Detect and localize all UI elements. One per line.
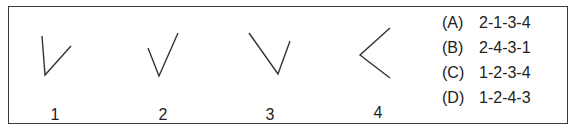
figure-3-angle	[249, 33, 290, 74]
answer-options: (A)2-1-3-4 (B)2-4-3-1 (C)1-2-3-4 (D)1-2-…	[442, 10, 531, 110]
figure-2-label: 2	[159, 106, 168, 124]
figure-4-angle	[360, 28, 390, 78]
figure-2-angle	[148, 33, 178, 76]
figure-1-label: 1	[51, 106, 60, 124]
option-a-value: 2-1-3-4	[479, 14, 531, 31]
option-d[interactable]: (D)1-2-4-3	[442, 85, 531, 110]
option-c[interactable]: (C)1-2-3-4	[442, 60, 531, 85]
option-a-key: (A)	[442, 10, 479, 35]
option-c-key: (C)	[442, 60, 479, 85]
option-c-value: 1-2-3-4	[479, 64, 531, 81]
option-a[interactable]: (A)2-1-3-4	[442, 10, 531, 35]
option-b-value: 2-4-3-1	[479, 39, 531, 56]
figure-3-label: 3	[266, 106, 275, 124]
option-b[interactable]: (B)2-4-3-1	[442, 35, 531, 60]
option-d-key: (D)	[442, 85, 479, 110]
option-d-value: 1-2-4-3	[479, 89, 531, 106]
figure-1-angle	[42, 36, 71, 75]
figure-4-label: 4	[374, 104, 383, 122]
option-b-key: (B)	[442, 35, 479, 60]
